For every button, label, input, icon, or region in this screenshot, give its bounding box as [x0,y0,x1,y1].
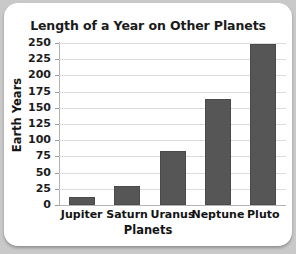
gridline [59,205,286,206]
bar-pluto [250,44,276,205]
y-axis-tick-label: 150 [7,101,51,114]
y-axis-tick-label: 125 [7,117,51,130]
bar-uranus [160,151,186,205]
y-axis-tick-label: 200 [7,68,51,81]
x-axis-tick-label-pluto: Pluto [223,208,296,221]
plot-area [59,43,286,205]
chart-title: Length of a Year on Other Planets [4,18,292,33]
bar-saturn [114,186,140,205]
y-axis-tick-label: 75 [7,149,51,162]
bar-jupiter [69,197,95,205]
y-axis-tick-label: 25 [7,182,51,195]
y-axis-tick-label: 100 [7,133,51,146]
y-axis-tick-label: 225 [7,52,51,65]
y-axis-tick-label: 250 [7,36,51,49]
y-axis-tick-label: 50 [7,166,51,179]
bar-neptune [205,99,231,205]
x-axis-label: Planets [4,223,292,237]
chart-card: Length of a Year on Other Planets Earth … [4,3,292,246]
y-axis-tick-label: 175 [7,85,51,98]
